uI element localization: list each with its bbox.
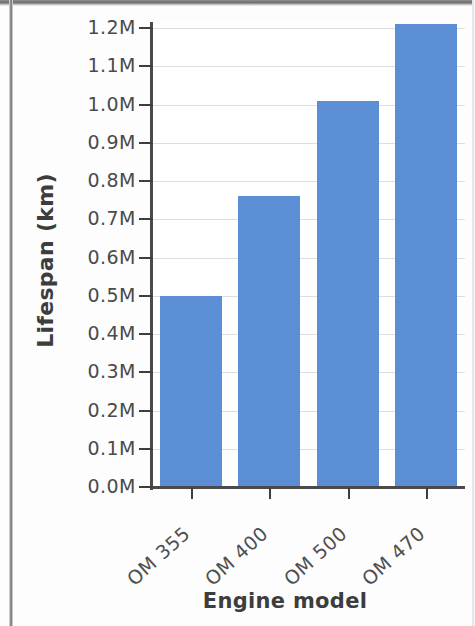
- y-axis-tick-label: 1.2M: [44, 18, 136, 37]
- scanned-page: 1.2M1.1M1.0M0.9M0.8M0.7M0.6M0.5M0.4M0.3M…: [0, 0, 475, 626]
- x-axis-tick-label: OM 400: [201, 523, 271, 589]
- y-axis-title: Lifespan (km): [33, 121, 58, 401]
- y-axis-tick-label: 0.4M: [44, 324, 136, 343]
- y-axis-tick-label: 0.5M: [44, 286, 136, 305]
- y-axis-tick-label: 0.1M: [44, 439, 136, 458]
- y-axis-tick: [139, 218, 152, 220]
- y-axis-tick: [139, 410, 152, 412]
- y-axis-tick: [139, 257, 152, 259]
- x-axis-tick: [426, 488, 428, 499]
- x-axis-tick: [348, 488, 350, 499]
- y-axis-tick: [139, 104, 152, 106]
- y-axis-tick: [139, 142, 152, 144]
- y-axis-tick-label: 0.8M: [44, 171, 136, 190]
- y-axis-tick: [139, 371, 152, 373]
- y-axis-tick-label: 0.6M: [44, 248, 136, 267]
- y-axis-tick-label: 1.0M: [44, 95, 136, 114]
- bar: [395, 24, 457, 487]
- x-axis-tick: [191, 488, 193, 499]
- x-axis-tick-label: OM 355: [123, 523, 193, 589]
- y-axis-tick-label: 0.3M: [44, 362, 136, 381]
- y-axis-tick-label: 0.2M: [44, 401, 136, 420]
- y-axis-tick: [139, 486, 152, 488]
- plot-area: [152, 22, 465, 487]
- bar-chart: 1.2M1.1M1.0M0.9M0.8M0.7M0.6M0.5M0.4M0.3M…: [0, 0, 475, 626]
- y-axis-tick-label: 0.9M: [44, 133, 136, 152]
- y-axis-tick-label: 0.7M: [44, 209, 136, 228]
- y-axis-tick: [139, 333, 152, 335]
- x-axis-tick-label: OM 470: [358, 523, 428, 589]
- bar: [160, 296, 222, 487]
- y-axis-tick: [139, 27, 152, 29]
- y-axis-tick-label: 1.1M: [44, 56, 136, 75]
- x-axis-spine: [150, 486, 465, 489]
- bar: [238, 196, 300, 487]
- x-axis-title: Engine model: [140, 589, 430, 613]
- bar: [317, 101, 379, 487]
- y-axis-tick: [139, 448, 152, 450]
- x-axis-tick-label: OM 500: [280, 523, 350, 589]
- y-axis-tick: [139, 295, 152, 297]
- x-axis-tick: [269, 488, 271, 499]
- y-axis-tick-label: 0.0M: [44, 477, 136, 496]
- y-axis-tick: [139, 180, 152, 182]
- y-axis-tick: [139, 65, 152, 67]
